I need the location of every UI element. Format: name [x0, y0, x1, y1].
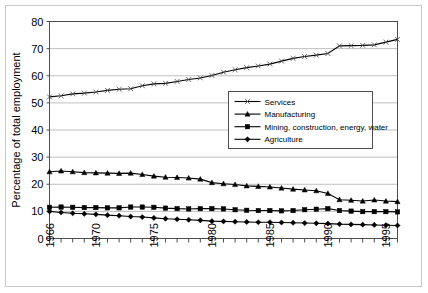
series-3-marker-1: [59, 210, 64, 215]
y-tick-label-20: 20: [31, 178, 43, 190]
series-3-marker-25: [337, 222, 342, 227]
series-line-0: [50, 39, 398, 97]
y-tick-label-40: 40: [31, 124, 43, 136]
series-2-marker-2: [71, 205, 75, 209]
y-tick-label-70: 70: [31, 43, 43, 55]
y-axis: 01020304050607080: [31, 16, 49, 245]
series-2-marker-23: [314, 207, 318, 211]
series-3-marker-12: [186, 217, 191, 222]
series-manufacturing: [47, 168, 400, 203]
y-tick-label-80: 80: [31, 16, 43, 28]
series-2-marker-22: [303, 208, 307, 212]
legend-label-3: Agriculture: [265, 135, 304, 144]
series-3-marker-3: [82, 211, 87, 216]
series-3-marker-8: [140, 214, 145, 219]
y-tick-label-50: 50: [31, 97, 43, 109]
legend-label-2: Mining, construction, energy, water: [265, 123, 389, 132]
series-2-marker-17: [245, 208, 249, 212]
x-tick-label-1966: 1966: [44, 223, 56, 247]
series-2-marker-25: [337, 208, 341, 212]
series-2-marker-14: [210, 206, 214, 210]
series-2-marker-24: [326, 206, 330, 210]
series-2-marker-20: [279, 209, 283, 213]
y-tick-label-30: 30: [31, 151, 43, 163]
series-services: [47, 37, 400, 99]
series-2-marker-28: [372, 209, 376, 213]
x-tick-label-1985: 1985: [264, 223, 276, 247]
series-2-marker-11: [175, 206, 179, 210]
y-tick-label-10: 10: [31, 205, 43, 217]
series-3-marker-17: [244, 219, 249, 224]
series-2-marker-6: [117, 206, 121, 210]
series-2-marker-7: [129, 205, 133, 209]
series-3-marker-21: [291, 220, 296, 225]
x-tick-label-1975: 1975: [148, 223, 160, 247]
series-3-marker-5: [105, 213, 110, 218]
series-2-marker-8: [140, 205, 144, 209]
series-line-1: [50, 171, 398, 202]
series-2-marker-27: [361, 209, 365, 213]
series-3-marker-7: [128, 214, 133, 219]
series-2-marker-5: [105, 206, 109, 210]
series-2-marker-12: [187, 207, 191, 211]
series-3-marker-26: [349, 222, 354, 227]
series-3-marker-6: [117, 213, 122, 218]
series-2-marker-3: [82, 205, 86, 209]
legend-label-0: Services: [265, 98, 296, 107]
series-3-marker-16: [233, 219, 238, 224]
series-2-marker-26: [349, 209, 353, 213]
chart-figure: 01020304050607080Percentage of total emp…: [0, 0, 428, 293]
series-2-marker-18: [256, 208, 260, 212]
series-2-marker-29: [384, 209, 388, 213]
series-3-marker-4: [93, 212, 98, 217]
series-3-marker-11: [175, 217, 180, 222]
series-mining: [47, 205, 399, 214]
series-3-marker-14: [209, 219, 214, 224]
y-axis-title: Percentage of total employment: [10, 52, 22, 207]
series-3-marker-18: [256, 220, 261, 225]
line-chart: 01020304050607080Percentage of total emp…: [0, 0, 428, 293]
series-2-marker-16: [233, 208, 237, 212]
legend-label-1: Manufacturing: [265, 110, 316, 119]
series-3-marker-22: [302, 220, 307, 225]
legend: ServicesManufacturingMining, constructio…: [229, 92, 389, 149]
series-3-marker-13: [198, 218, 203, 223]
x-tick-label-1990: 1990: [322, 223, 334, 247]
series-3-marker-28: [372, 222, 377, 227]
series-2-marker-4: [94, 205, 98, 209]
series-2-marker-9: [152, 205, 156, 209]
series-3-marker-27: [360, 222, 365, 227]
series-2-marker-30: [395, 210, 399, 214]
series-3-marker-20: [279, 220, 284, 225]
x-axis: 1966197019751980198519901995: [44, 223, 398, 247]
series-2-marker-15: [221, 207, 225, 211]
series-2-marker-13: [198, 206, 202, 210]
series-2-marker-10: [163, 206, 167, 210]
series-3-marker-9: [151, 215, 156, 220]
series-2-marker-21: [291, 208, 295, 212]
y-tick-label-60: 60: [31, 70, 43, 82]
series-2-marker-19: [268, 208, 272, 212]
legend-marker-2: [245, 125, 249, 129]
x-tick-label-1970: 1970: [90, 223, 102, 247]
series-2-marker-1: [59, 205, 63, 209]
series-3-marker-15: [221, 219, 226, 224]
x-tick-label-1980: 1980: [206, 223, 218, 247]
series-3-marker-23: [314, 221, 319, 226]
series-3-marker-10: [163, 216, 168, 221]
series-3-marker-30: [395, 223, 400, 228]
